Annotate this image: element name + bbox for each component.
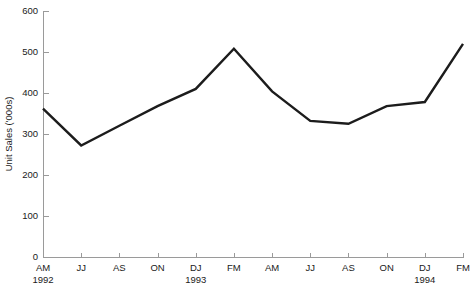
chart-canvas: 0100200300400500600 AMJJASONDJFMAMJJASON… — [0, 0, 474, 290]
x-tick-label: AS — [113, 262, 126, 273]
x-tick-label: JJ — [306, 262, 316, 273]
series-layer — [43, 44, 463, 146]
series-line-unit-sales — [43, 44, 463, 146]
x-tick-label: FM — [227, 262, 241, 273]
y-tick-label: 300 — [22, 128, 38, 139]
x-tick-label: AS — [342, 262, 355, 273]
x-tick-label: AM — [36, 262, 50, 273]
x-tick-label: ON — [380, 262, 394, 273]
y-axis: 0100200300400500600 — [22, 5, 48, 262]
y-tick-label: 400 — [22, 87, 38, 98]
y-axis-title: Unit Sales ('000s) — [3, 97, 14, 172]
x-axis-year-label: 1993 — [185, 274, 206, 285]
axis-labels: Unit Sales ('000s) — [3, 97, 14, 172]
x-axis-year-label: 1994 — [414, 274, 435, 285]
y-tick-label: 600 — [22, 5, 38, 16]
x-axis-year-label: 1992 — [32, 274, 53, 285]
x-tick-label: DJ — [419, 262, 431, 273]
y-tick-label: 500 — [22, 46, 38, 57]
x-tick-label: AM — [265, 262, 279, 273]
y-tick-label: 200 — [22, 169, 38, 180]
line-chart: 0100200300400500600 AMJJASONDJFMAMJJASON… — [0, 0, 474, 290]
x-axis: AMJJASONDJFMAMJJASONDJFM199219931994 — [32, 253, 470, 286]
x-tick-label: DJ — [190, 262, 202, 273]
x-tick-label: FM — [456, 262, 470, 273]
y-tick-label: 100 — [22, 210, 38, 221]
x-tick-label: ON — [150, 262, 164, 273]
y-tick-label: 0 — [33, 251, 38, 262]
x-tick-label: JJ — [76, 262, 86, 273]
